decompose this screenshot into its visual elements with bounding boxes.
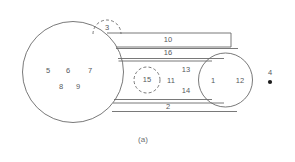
- large-circle-labels: 5 6 7 8 9: [46, 66, 92, 91]
- label-4: 4: [268, 68, 272, 77]
- label-16: 16: [164, 48, 172, 57]
- label-6: 6: [66, 66, 70, 75]
- label-8: 8: [59, 82, 63, 91]
- figure-container: 5 6 7 8 9 10 16 2 15 11 13 14 3 1 12 4: [0, 0, 295, 162]
- figure-caption: (a): [138, 135, 148, 144]
- large-left-circle: [23, 22, 124, 123]
- small-circle-labels: 1 12: [211, 76, 244, 85]
- label-12: 12: [236, 76, 244, 85]
- label-14: 14: [182, 86, 190, 95]
- small-right-circle: [199, 53, 253, 107]
- label-13: 13: [182, 65, 190, 74]
- filled-point-marker: [268, 80, 272, 84]
- label-15: 15: [143, 75, 151, 84]
- diagram-canvas: 5 6 7 8 9 10 16 2 15 11 13 14 3 1 12 4: [0, 0, 295, 162]
- label-11: 11: [167, 76, 175, 85]
- band-lines-group: [107, 33, 238, 112]
- label-9: 9: [76, 82, 80, 91]
- label-2: 2: [166, 102, 170, 111]
- label-7: 7: [88, 66, 92, 75]
- label-3: 3: [105, 23, 109, 32]
- label-5: 5: [46, 66, 50, 75]
- label-1: 1: [211, 76, 215, 85]
- label-10: 10: [164, 35, 172, 44]
- middle-region-labels: 15 11 13 14: [143, 65, 190, 95]
